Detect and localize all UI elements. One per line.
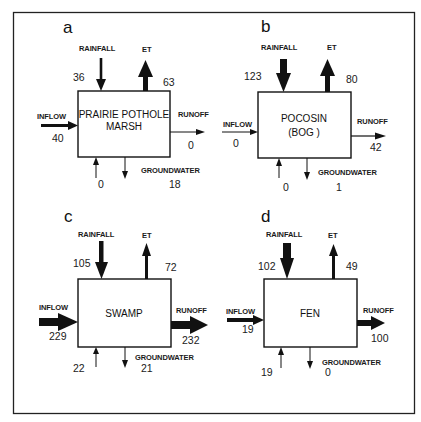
inflow-label: INFLOW bbox=[39, 303, 69, 312]
rainfall-label: RAINFALL bbox=[78, 230, 115, 239]
et-value: 49 bbox=[346, 260, 358, 272]
runoff-label: RUNOFF bbox=[178, 110, 209, 119]
wetland-name-line2: MARSH bbox=[106, 121, 142, 132]
groundwater-out-value: 18 bbox=[169, 178, 181, 190]
rainfall-value: 102 bbox=[258, 260, 276, 272]
et-label: ET bbox=[142, 231, 152, 240]
wetland-name: POCOSIN bbox=[281, 113, 327, 124]
inflow-label: INFLOW bbox=[37, 112, 67, 121]
runoff-label: RUNOFF bbox=[176, 306, 207, 315]
groundwater-label: GROUNDWATER bbox=[322, 358, 381, 367]
inflow-label: INFLOW bbox=[226, 307, 256, 316]
runoff-label: RUNOFF bbox=[357, 117, 388, 126]
wetland-name: FEN bbox=[300, 308, 320, 319]
panel-letter: a bbox=[63, 18, 73, 37]
et-label: ET bbox=[142, 45, 152, 54]
groundwater-label: GROUNDWATER bbox=[318, 168, 377, 177]
et-arrow-icon bbox=[325, 75, 330, 92]
panel-letter: b bbox=[261, 17, 270, 36]
runoff-label: RUNOFF bbox=[363, 306, 394, 315]
inflow-arrow-icon bbox=[227, 318, 255, 322]
wetland-box bbox=[258, 92, 351, 158]
groundwater-in-value: 0 bbox=[98, 178, 104, 190]
groundwater-label: GROUNDWATER bbox=[135, 353, 194, 362]
inflow-label: INFLOW bbox=[223, 120, 253, 129]
groundwater-in-value: 0 bbox=[283, 181, 289, 193]
et-arrow-icon bbox=[143, 75, 148, 91]
et-label: ET bbox=[327, 43, 337, 52]
runoff-arrow-icon bbox=[171, 321, 193, 329]
runoff-value: 0 bbox=[188, 139, 194, 151]
groundwater-in-value: 19 bbox=[261, 366, 273, 378]
groundwater-out-value: 1 bbox=[336, 181, 342, 193]
groundwater-in-value: 22 bbox=[73, 362, 85, 374]
rainfall-label: RAINFALL bbox=[261, 43, 298, 52]
et-value: 63 bbox=[163, 76, 175, 88]
et-arrow-icon bbox=[145, 254, 148, 279]
rainfall-label: RAINFALL bbox=[266, 230, 303, 239]
panel-letter: d bbox=[261, 207, 270, 226]
wetland-budget-diagram: a PRAIRIE POTHOLE MARSH RAINFALL 36 ET 6… bbox=[0, 0, 421, 422]
rainfall-label: RAINFALL bbox=[79, 44, 116, 53]
inflow-value: 0 bbox=[233, 137, 239, 149]
panel-letter: c bbox=[64, 207, 73, 226]
et-value: 72 bbox=[165, 261, 177, 273]
et-arrow-icon bbox=[332, 254, 335, 279]
inflow-value: 40 bbox=[52, 132, 64, 144]
groundwater-out-value: 0 bbox=[325, 366, 331, 378]
runoff-value: 232 bbox=[182, 334, 200, 346]
et-value: 80 bbox=[346, 73, 358, 85]
et-label: ET bbox=[328, 231, 338, 240]
rainfall-value: 105 bbox=[73, 257, 91, 269]
rainfall-value: 36 bbox=[73, 71, 85, 83]
wetland-name-line2: (BOG ) bbox=[288, 127, 320, 138]
inflow-value: 19 bbox=[242, 323, 254, 335]
rainfall-value: 123 bbox=[244, 70, 262, 82]
runoff-value: 42 bbox=[370, 141, 382, 153]
inflow-arrow-icon bbox=[41, 124, 71, 127]
groundwater-label: GROUNDWATER bbox=[141, 166, 200, 175]
wetland-name: SWAMP bbox=[105, 308, 143, 319]
inflow-arrow-icon bbox=[39, 318, 61, 326]
wetland-name: PRAIRIE POTHOLE bbox=[79, 109, 170, 120]
groundwater-out-value: 21 bbox=[141, 362, 153, 374]
inflow-value: 229 bbox=[49, 330, 67, 342]
runoff-value: 100 bbox=[371, 332, 389, 344]
